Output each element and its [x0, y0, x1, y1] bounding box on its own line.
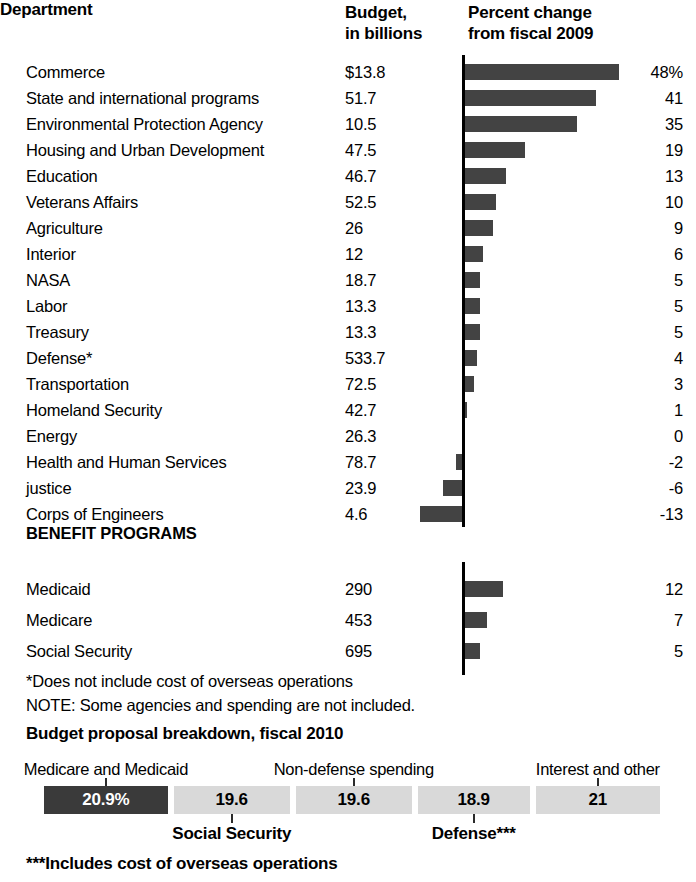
breakdown-segment: 19.6: [296, 786, 412, 814]
budget-chart: Budget, in billions Percent change from …: [0, 0, 696, 882]
breakdown-leader-line: [353, 778, 355, 786]
breakdown-leader-line: [231, 814, 233, 823]
breakdown-segment-label: Medicare and Medicaid: [0, 760, 216, 779]
breakdown-segment: 18.9: [418, 786, 530, 814]
breakdown-segment-label: Non-defense spending: [244, 760, 464, 779]
breakdown-segment: 19.6: [174, 786, 290, 814]
breakdown-segment: 20.9%: [44, 786, 168, 814]
budget-breakdown-bar: 20.9%Medicare and Medicaid19.6Social Sec…: [0, 0, 696, 882]
breakdown-segment-label: Interest and other: [488, 760, 696, 779]
breakdown-segment-label: Social Security: [122, 824, 342, 844]
breakdown-leader-line: [473, 814, 475, 823]
breakdown-segment: 21: [536, 786, 660, 814]
breakdown-segment-label: Defense***: [364, 824, 584, 844]
footnote-triple-asterisk: ***Includes cost of overseas operations: [26, 854, 338, 874]
breakdown-leader-line: [597, 778, 599, 786]
breakdown-leader-line: [105, 778, 107, 786]
